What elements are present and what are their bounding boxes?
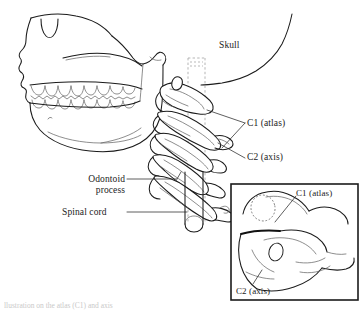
label-skull: Skull <box>219 40 240 51</box>
label-c2-axis: C2 (axis) <box>247 152 283 163</box>
label-odontoid-process: Odontoid process <box>63 174 125 196</box>
label-c1-atlas: C1 (atlas) <box>247 118 285 129</box>
inset-label-c2-axis: C2 (axis) <box>236 286 270 297</box>
odontoid-peg <box>172 77 183 90</box>
label-spinal-cord: Spinal cord <box>62 207 107 218</box>
anatomical-figure: .s { fill:none; stroke:#1b1b1b; stroke-w… <box>0 0 364 312</box>
bottom-caption-fragment: llustration on the atlas (C1) and axis <box>4 301 360 310</box>
figure-artwork: .s { fill:none; stroke:#1b1b1b; stroke-w… <box>0 0 364 312</box>
inset-label-c1-atlas: C1 (atlas) <box>296 188 332 199</box>
inset-detail <box>231 184 358 300</box>
